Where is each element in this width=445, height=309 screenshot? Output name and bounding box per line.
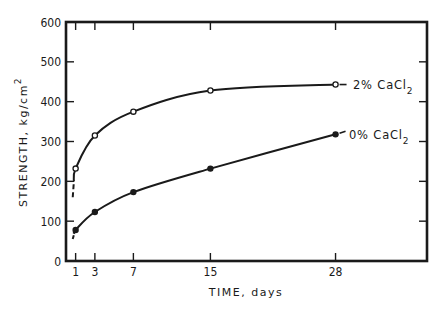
data-markers	[72, 82, 338, 233]
curve-0pct-cacl2	[74, 134, 336, 234]
marker-open-circle	[92, 133, 97, 138]
series-labels: 2% CaCl2 0% CaCl2	[349, 78, 413, 146]
y-axis-title: STRENGTH, kg/cm2	[13, 77, 30, 207]
marker-filled-circle	[72, 227, 78, 233]
y-tick-label: 0	[54, 255, 61, 269]
x-tick-label: 15	[204, 265, 218, 279]
x-tick-label: 3	[91, 265, 98, 279]
series-label-2pct: 2% CaCl2	[353, 78, 413, 96]
y-tick-label: 400	[40, 95, 61, 109]
marker-filled-circle	[332, 131, 338, 137]
y-axis-title-group: STRENGTH, kg/cm2	[13, 77, 30, 207]
marker-open-circle	[333, 82, 338, 87]
y-tick-label: 100	[40, 215, 61, 229]
y-tick-label: 300	[40, 135, 61, 149]
marker-open-circle	[131, 109, 136, 114]
y-tick-label: 600	[40, 16, 61, 30]
marker-filled-circle	[207, 165, 213, 171]
y-axis-title-superscript: 2	[13, 77, 23, 84]
x-axis-title: TIME, days	[208, 286, 283, 299]
curve-2pct-cacl2	[74, 85, 336, 182]
strength-vs-time-chart: 01002003004005006001371528 TIME, days ST…	[0, 0, 445, 309]
axis-ticks: 01002003004005006001371528	[40, 16, 427, 280]
marker-open-circle	[208, 88, 213, 93]
x-tick-label: 7	[130, 265, 137, 279]
x-tick-label: 1	[72, 265, 79, 279]
y-tick-label: 500	[40, 55, 61, 69]
y-tick-label: 200	[40, 175, 61, 189]
marker-open-circle	[73, 166, 78, 171]
data-curves	[73, 85, 347, 240]
series-label-0pct: 0% CaCl2	[349, 128, 409, 146]
marker-filled-circle	[92, 209, 98, 215]
marker-filled-circle	[130, 189, 136, 195]
x-tick-label: 28	[329, 265, 343, 279]
